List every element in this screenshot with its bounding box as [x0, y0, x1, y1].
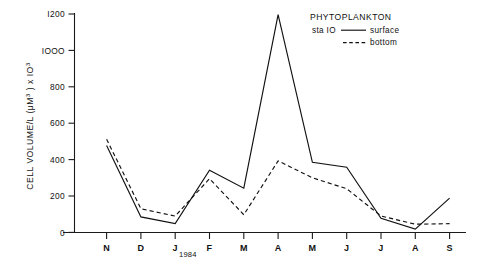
- x-tick-label-6: M: [308, 243, 316, 253]
- legend-label-bottom: bottom: [370, 38, 397, 47]
- svg-text:CELL VOLUME/L (μM3 ) x IO3: CELL VOLUME/L (μM3 ) x IO3: [24, 62, 35, 189]
- y-axis: I200 IOOO 800 600 400 200 0: [42, 9, 75, 237]
- legend-title: PHYTOPLANKTON: [310, 12, 391, 22]
- series-bottom-line: [107, 139, 450, 224]
- legend-entry-bottom: bottom: [343, 38, 397, 47]
- x-tick-label-3: F: [207, 243, 213, 253]
- x-tick-label-7: J: [344, 243, 349, 253]
- x-axis: N D J F M A M J J A S 1984: [63, 233, 466, 259]
- y-axis-title-sup2: 3: [24, 62, 31, 66]
- y-tick-label-1200: I200: [47, 9, 65, 19]
- x-tick-label-2: J: [173, 243, 178, 253]
- x-tick-label-10: S: [446, 243, 452, 253]
- y-tick-label-200: 200: [50, 191, 65, 201]
- x-tick-label-0: N: [103, 243, 110, 253]
- x-tick-label-1: D: [137, 243, 144, 253]
- legend: PHYTOPLANKTON sta IO surface bottom: [310, 12, 399, 47]
- x-tick-label-4: M: [240, 243, 248, 253]
- phytoplankton-line-chart: I200 IOOO 800 600 400 200 0 CELL VOLUME/…: [0, 0, 477, 273]
- y-tick-label-600: 600: [50, 118, 65, 128]
- y-tick-label-800: 800: [50, 82, 65, 92]
- y-axis-title: CELL VOLUME/L (μM3 ) x IO3: [24, 62, 35, 189]
- chart-figure: I200 IOOO 800 600 400 200 0 CELL VOLUME/…: [0, 0, 477, 273]
- legend-entry-surface: sta IO surface: [312, 26, 399, 35]
- x-tick-label-9: A: [412, 243, 419, 253]
- series-surface-line: [107, 15, 450, 229]
- x-axis-year-annotation: 1984: [179, 250, 197, 259]
- y-tick-label-1000: IOOO: [42, 46, 65, 56]
- x-tick-label-5: A: [275, 243, 282, 253]
- x-tick-label-8: J: [378, 243, 383, 253]
- legend-station-label: sta IO: [312, 26, 336, 35]
- y-axis-title-mid: ) x IO: [25, 66, 35, 93]
- data-series-group: [107, 15, 450, 229]
- y-axis-title-main: CELL VOLUME/L (μM: [25, 97, 35, 190]
- legend-label-surface: surface: [370, 26, 399, 35]
- y-tick-label-400: 400: [50, 155, 65, 165]
